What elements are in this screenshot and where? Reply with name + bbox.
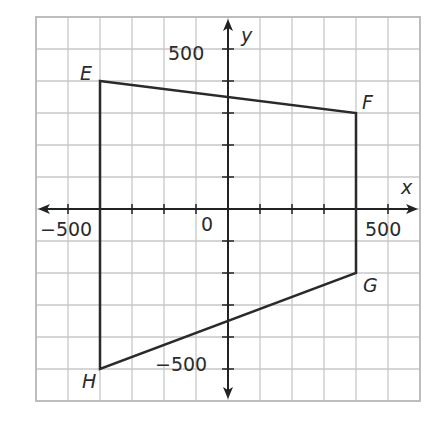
y-axis-label: y <box>240 24 253 46</box>
tick-label-x-neg-500: −500 <box>40 218 92 240</box>
tick-label-origin: 0 <box>201 213 213 235</box>
coordinate-plane: −500 500 500 −500 0 x y E F G H <box>0 0 436 427</box>
x-axis-label: x <box>400 176 413 198</box>
vertex-label-f: F <box>362 91 374 113</box>
vertex-label-g: G <box>363 274 378 296</box>
vertex-label-e: E <box>80 62 92 84</box>
tick-label-y-pos-500: 500 <box>168 42 204 64</box>
axes <box>38 19 418 399</box>
vertex-label-h: H <box>82 370 96 392</box>
tick-label-y-neg-500: −500 <box>155 353 207 375</box>
tick-label-x-pos-500: 500 <box>365 218 401 240</box>
